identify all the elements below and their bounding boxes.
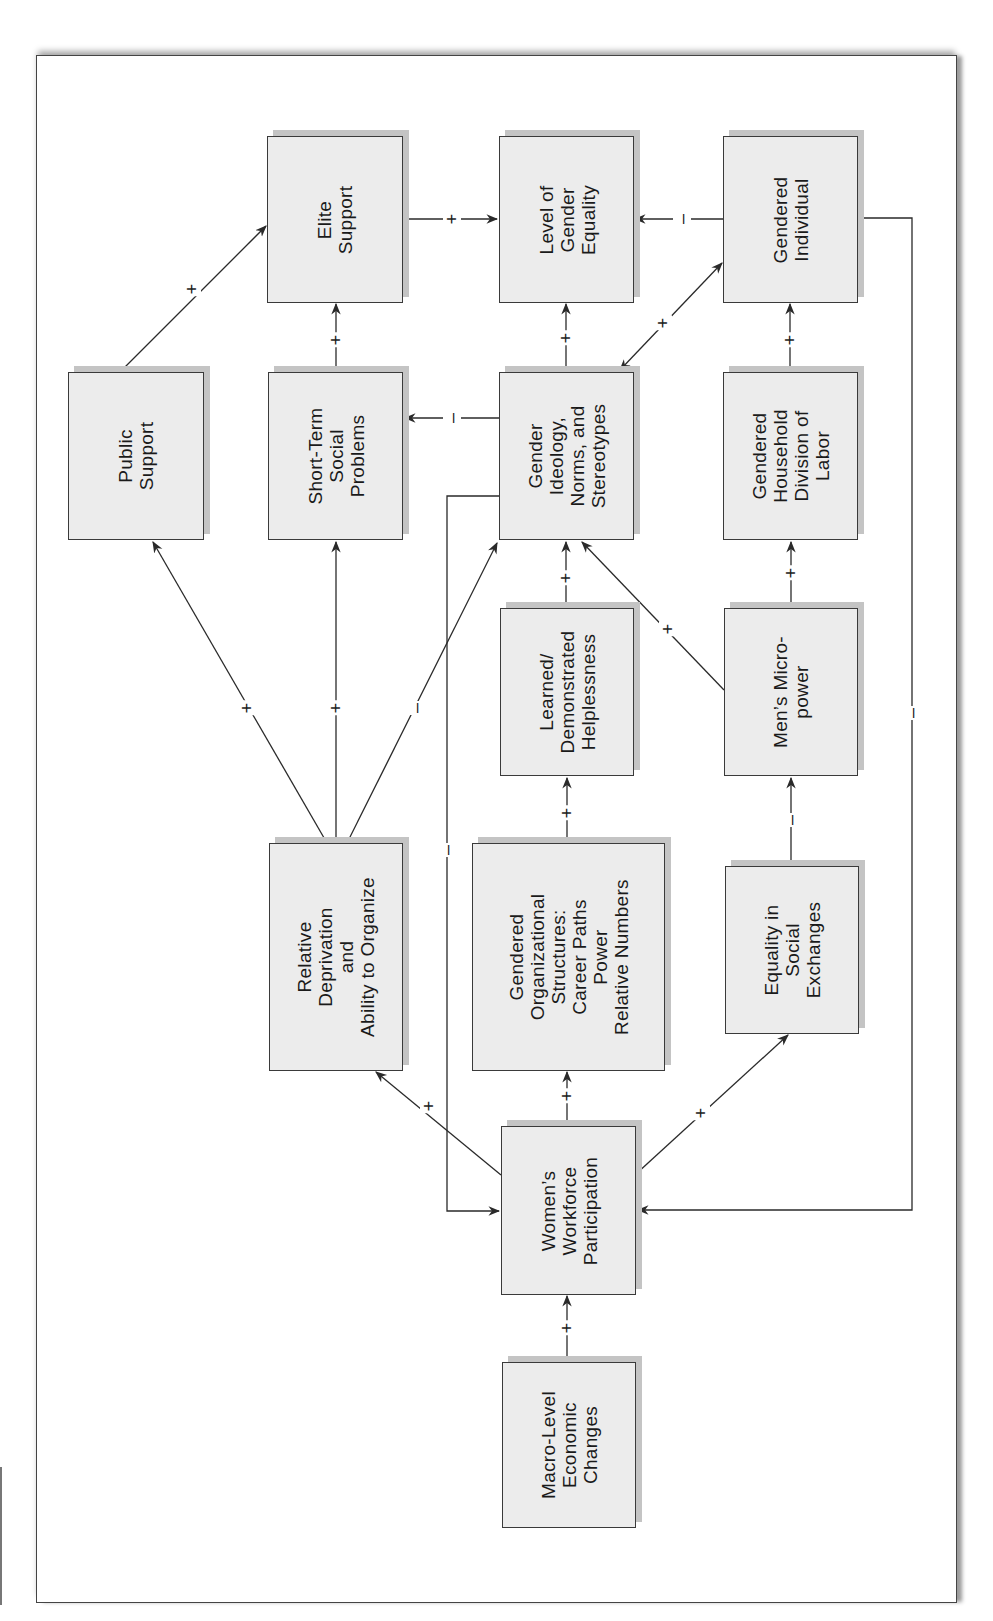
node-label: Gendered Individual [770,176,812,263]
sign-household-individual: + [781,333,799,348]
node-elite-support: Elite Support [267,136,403,303]
sign-ideology-individual: + [654,316,672,331]
sign-reldep-shortterm: + [327,701,345,716]
node-public-support: Public Support [68,372,204,540]
sign-macro-workforce: + [558,1321,576,1336]
sign-reldep-public: + [238,701,256,716]
node-womens-workforce: Women’s Workforce Participation [501,1126,636,1295]
node-label: Macro-Level Economic Changes [538,1391,601,1499]
sign-workforce-reldep: + [420,1099,438,1114]
node-label: Relative Deprivation and Ability to Orga… [294,877,378,1037]
node-label: Gender Ideology, Norms, and Stereotypes [525,404,609,509]
node-label: Gendered Organizational Structures: Care… [506,879,632,1035]
sign-ideology-equality: + [557,331,575,346]
node-relative-deprivation: Relative Deprivation and Ability to Orga… [269,843,403,1071]
node-learned-helplessness: Learned/ Demonstrated Helplessness [500,608,634,776]
node-gendered-household: Gendered Household Division of Labor [723,372,858,540]
sign-workforce-org: + [558,1089,576,1104]
sign-reldep-ideology: – [407,701,425,715]
node-equality-social-exchanges: Equality in Social Exchanges [725,866,859,1034]
edge-public-elite [120,226,266,372]
sign-exchanges-micropower: – [782,813,800,827]
node-label: Gendered Household Division of Labor [749,409,833,503]
node-label: Equality in Social Exchanges [761,902,824,999]
node-label: Short-Term Social Problems [304,408,367,505]
node-gendered-org-structures: Gendered Organizational Structures: Care… [472,843,665,1071]
node-level-gender-equality: Level of Gender Equality [499,136,634,303]
edge-reldep-ideology [347,543,497,843]
sign-elite-equality: + [443,212,461,227]
node-label: Women’s Workforce Participation [537,1156,600,1264]
node-gender-ideology: Gender Ideology, Norms, and Stereotypes [499,372,634,540]
node-macro-economic: Macro-Level Economic Changes [502,1362,636,1528]
sign-workforce-exchanges: + [692,1106,710,1121]
node-gendered-individual: Gendered Individual [723,136,858,303]
sign-ideology-shortterm: – [443,411,461,425]
node-label: Learned/ Demonstrated Helplessness [536,631,599,754]
node-mens-micropower: Men’s Micro- power [724,608,858,776]
sign-ideology-workforce: – [438,843,456,857]
node-label: Level of Gender Equality [535,185,598,255]
sign-micropower-ideology: + [659,622,677,637]
sign-public-elite: + [183,282,201,297]
node-label: Elite Support [314,185,356,254]
edge-workforce-reldep [376,1072,501,1175]
edge-reldep-public [153,542,327,843]
sign-individual-equality: – [673,212,691,226]
sign-micropower-household: + [782,566,800,581]
sign-learned-ideology: + [557,571,575,586]
node-label: Public Support [115,422,157,491]
node-label: Men’s Micro- power [770,636,812,748]
sign-org-learned: + [558,806,576,821]
sign-individual-workforce: – [903,706,921,720]
sign-shortterm-elite: + [327,333,345,348]
node-short-term-social-problems: Short-Term Social Problems [268,372,403,540]
